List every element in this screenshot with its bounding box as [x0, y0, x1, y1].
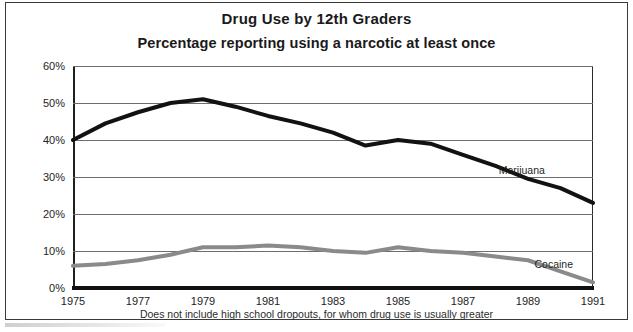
- x-axis-tick-label: 1983: [321, 295, 345, 307]
- y-axis-tick-label: 40%: [21, 134, 65, 146]
- chart-footnote: Does not include high school dropouts, f…: [0, 308, 633, 320]
- x-axis-tick-label: 1991: [581, 295, 605, 307]
- series-line-marijuana: [73, 99, 593, 203]
- x-axis-tick-label: 1977: [126, 295, 150, 307]
- y-axis-tick-label: 0%: [21, 282, 65, 294]
- x-axis-tick-label: 1979: [191, 295, 215, 307]
- x-axis-tick-label: 1975: [61, 295, 85, 307]
- plot-area: MarijuanaCocaine: [73, 66, 593, 288]
- y-axis-tick-label: 60%: [21, 60, 65, 72]
- y-axis-tick-label: 20%: [21, 208, 65, 220]
- scan-artifact: [5, 323, 165, 327]
- series-annotation-marijuana: Marijuana: [499, 164, 545, 176]
- series-line-cocaine: [73, 245, 593, 282]
- chart-figure: Drug Use by 12th Graders Percentage repo…: [0, 0, 633, 332]
- y-axis-tick-label: 10%: [21, 245, 65, 257]
- series-lines: [73, 66, 593, 288]
- x-axis-tick-label: 1985: [386, 295, 410, 307]
- series-annotation-cocaine: Cocaine: [535, 258, 574, 270]
- chart-title: Drug Use by 12th Graders: [0, 10, 633, 27]
- chart-subtitle: Percentage reporting using a narcotic at…: [0, 35, 633, 51]
- x-axis-tick-label: 1987: [451, 295, 475, 307]
- x-axis-tick-label: 1981: [256, 295, 280, 307]
- y-axis-tick-label: 50%: [21, 97, 65, 109]
- x-axis-tick-label: 1989: [516, 295, 540, 307]
- y-axis-tick-label: 30%: [21, 171, 65, 183]
